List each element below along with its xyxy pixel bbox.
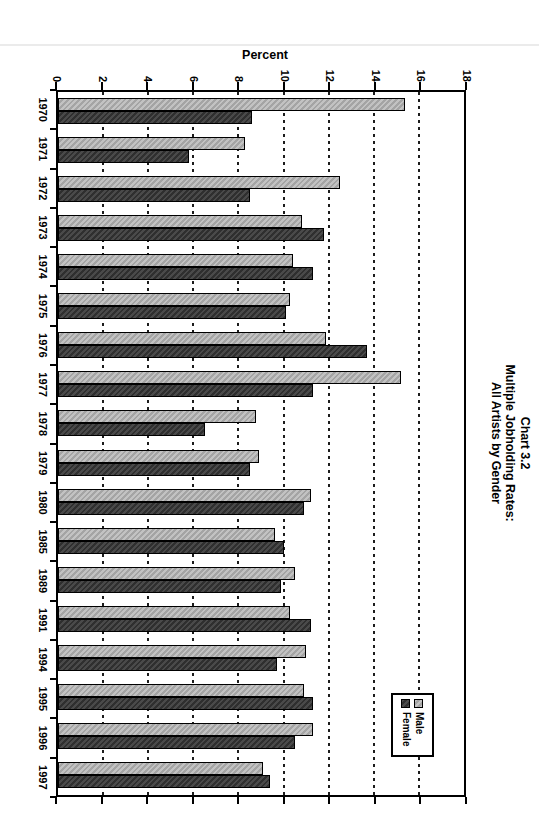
bar-female-1997 — [58, 775, 270, 788]
x-tick-label-1971: 1971 — [37, 137, 49, 161]
y-tick-label-4: 4 — [141, 38, 154, 82]
x-tick-label-1996: 1996 — [37, 726, 49, 750]
bar-male-1975 — [58, 293, 290, 306]
bar-male-1980 — [58, 489, 311, 502]
x-tick-label-1972: 1972 — [37, 176, 49, 200]
y-tick-label-8: 8 — [232, 38, 245, 82]
x-tick-0 — [50, 89, 56, 91]
page: Chart 3.2 Multiple Jobholding Rates: All… — [0, 0, 539, 836]
legend-swatch-female-icon — [402, 699, 411, 708]
bar-female-1995 — [58, 697, 313, 710]
x-tick-label-1979: 1979 — [37, 451, 49, 475]
bar-female-1975 — [58, 306, 286, 319]
legend-swatch-male-icon — [415, 699, 424, 708]
legend-label-female: Female — [401, 712, 411, 746]
legend-item-female: Female — [401, 699, 411, 751]
x-tick-label-1995: 1995 — [37, 687, 49, 711]
y-tick-label-10: 10 — [278, 38, 291, 82]
x-tick-label-1994: 1994 — [37, 647, 49, 671]
bar-female-1994 — [58, 658, 277, 671]
bar-male-1972 — [58, 176, 340, 189]
gridline-14 — [373, 92, 375, 795]
y-tick-label-0: 0 — [50, 38, 63, 82]
bar-female-1989 — [58, 580, 281, 593]
y-tick-label-18: 18 — [460, 38, 473, 82]
x-tick-label-1976: 1976 — [37, 333, 49, 357]
y-tick-left-8 — [237, 82, 239, 90]
x-tick-label-1973: 1973 — [37, 215, 49, 239]
bar-female-1979 — [58, 463, 250, 476]
bar-male-1994 — [58, 645, 306, 658]
x-tick-15 — [50, 678, 56, 680]
chart-title-line3: All Artists by Gender — [489, 364, 504, 521]
y-tick-label-6: 6 — [187, 38, 200, 82]
y-tick-right-0 — [55, 797, 57, 804]
y-tick-left-12 — [328, 82, 330, 90]
legend-label-male: Male — [414, 712, 424, 734]
x-tick-6 — [50, 325, 56, 327]
bar-female-1996 — [58, 736, 295, 749]
x-tick-2 — [50, 168, 56, 170]
chart-title-line1: Chart 3.2 — [518, 364, 533, 521]
x-tick-13 — [50, 600, 56, 602]
x-tick-14 — [50, 639, 56, 641]
bar-male-1985 — [58, 528, 275, 541]
y-tick-label-16: 16 — [414, 38, 427, 82]
bar-female-1973 — [58, 228, 324, 241]
y-tick-right-12 — [328, 797, 330, 804]
y-tick-right-2 — [101, 797, 103, 804]
y-tick-label-2: 2 — [96, 38, 109, 82]
y-tick-right-14 — [374, 797, 376, 804]
x-tick-11 — [50, 521, 56, 523]
bar-male-1996 — [58, 723, 313, 736]
x-tick-label-1977: 1977 — [37, 372, 49, 396]
x-tick-8 — [50, 403, 56, 405]
bar-male-1979 — [58, 450, 259, 463]
bar-male-1970 — [58, 98, 405, 111]
y-tick-left-2 — [101, 82, 103, 90]
y-tick-right-4 — [146, 797, 148, 804]
gridline-16 — [418, 92, 420, 795]
x-tick-18 — [50, 796, 56, 798]
x-tick-label-1991: 1991 — [37, 608, 49, 632]
gridline-12 — [328, 92, 330, 795]
bar-male-1997 — [58, 762, 263, 775]
bar-female-1974 — [58, 267, 313, 280]
bar-female-1970 — [58, 111, 252, 124]
bar-male-1977 — [58, 371, 401, 384]
bar-female-1985 — [58, 541, 284, 554]
x-tick-label-1980: 1980 — [37, 490, 49, 514]
x-tick-9 — [50, 443, 56, 445]
bar-female-1977 — [58, 384, 313, 397]
legend: Male Female — [391, 693, 434, 757]
x-tick-16 — [50, 717, 56, 719]
y-tick-right-16 — [419, 797, 421, 804]
y-tick-right-10 — [283, 797, 285, 804]
y-tick-left-10 — [283, 82, 285, 90]
y-tick-left-14 — [374, 82, 376, 90]
y-tick-label-12: 12 — [323, 38, 336, 82]
x-tick-7 — [50, 364, 56, 366]
bar-female-1980 — [58, 502, 304, 515]
rotated-chart-container: Chart 3.2 Multiple Jobholding Rates: All… — [7, 30, 533, 820]
bar-male-1971 — [58, 137, 245, 150]
x-tick-label-1978: 1978 — [37, 412, 49, 436]
y-tick-right-18 — [465, 797, 467, 804]
x-tick-label-1975: 1975 — [37, 294, 49, 318]
bar-male-1991 — [58, 606, 290, 619]
y-tick-left-18 — [465, 82, 467, 90]
y-tick-left-4 — [146, 82, 148, 90]
bar-male-1989 — [58, 567, 295, 580]
bar-male-1973 — [58, 215, 302, 228]
bar-female-1991 — [58, 619, 311, 632]
y-tick-right-8 — [237, 797, 239, 804]
x-tick-5 — [50, 285, 56, 287]
bar-female-1971 — [58, 150, 189, 163]
bar-male-1995 — [58, 684, 304, 697]
bar-female-1976 — [58, 345, 367, 358]
y-tick-left-6 — [192, 82, 194, 90]
x-tick-label-1985: 1985 — [37, 529, 49, 553]
x-tick-4 — [50, 246, 56, 248]
x-tick-17 — [50, 757, 56, 759]
legend-item-male: Male — [414, 699, 424, 751]
